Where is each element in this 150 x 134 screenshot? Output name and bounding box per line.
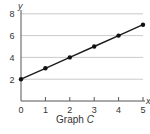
gridlines <box>21 14 143 79</box>
y-tick-label: 6 <box>9 31 14 41</box>
chart-caption: Graph C <box>0 114 150 125</box>
caption-prefix: Graph <box>56 114 87 125</box>
data-point-marker <box>116 33 120 37</box>
data-point-marker <box>68 55 72 59</box>
y-tick-label: 8 <box>9 9 14 19</box>
x-ticks: 012345 <box>18 97 145 115</box>
y-tick-labels: 2468 <box>9 9 14 84</box>
data-point-marker <box>92 44 96 48</box>
data-point-marker <box>43 66 47 70</box>
y-tick-label: 2 <box>9 75 14 85</box>
y-tick-label: 4 <box>9 53 14 63</box>
data-line <box>21 25 143 79</box>
y-axis-label: y <box>17 1 23 11</box>
caption-letter: C <box>87 114 94 125</box>
x-axis-label: x <box>145 96 150 106</box>
data-point-marker <box>19 77 23 81</box>
data-point-marker <box>141 23 145 27</box>
